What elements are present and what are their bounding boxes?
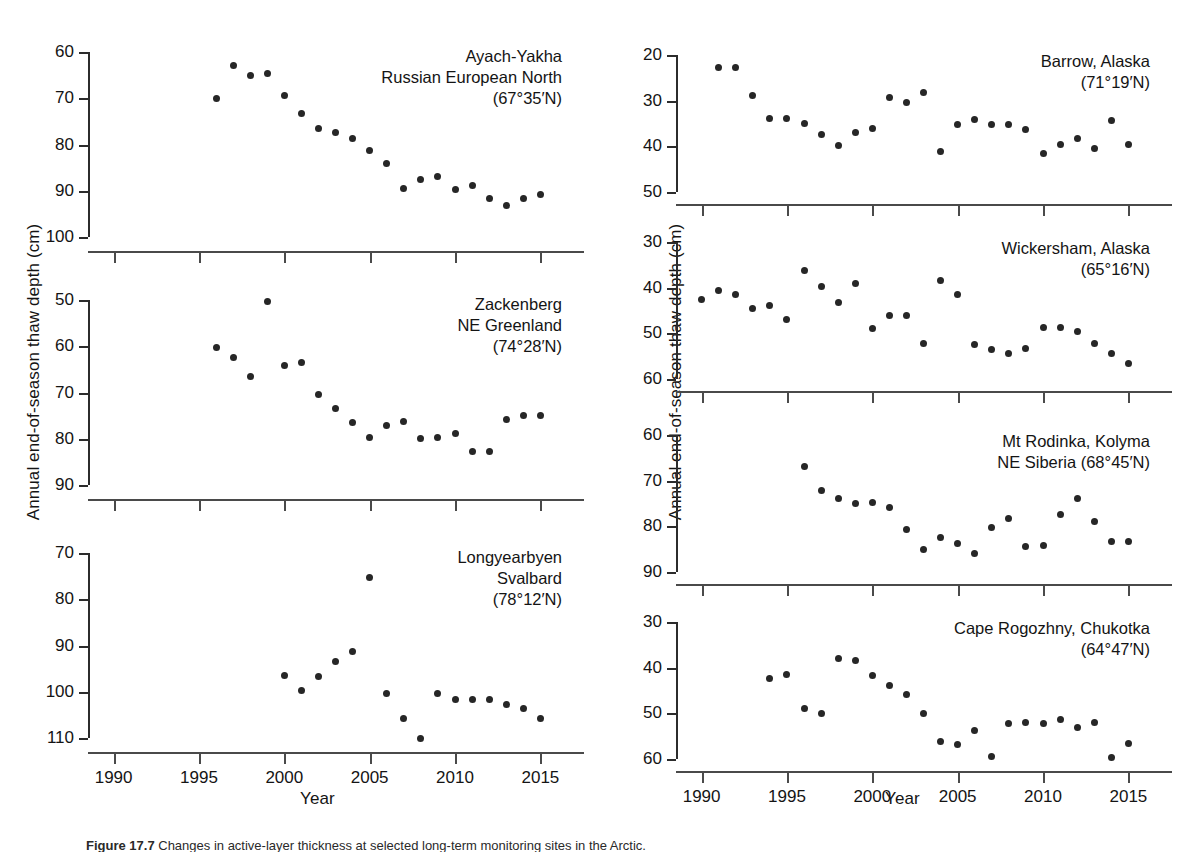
y-tick — [667, 435, 676, 437]
data-point — [937, 277, 944, 284]
y-tick — [79, 393, 88, 395]
data-point — [1040, 150, 1047, 157]
data-point — [503, 416, 510, 423]
panel-wickersham: 30405060Wickersham, Alaska (65°16′N) — [676, 242, 1154, 379]
data-point — [801, 705, 808, 712]
x-tick — [1043, 206, 1045, 216]
x-tick — [370, 501, 372, 511]
x-tick-label: 2000 — [265, 768, 303, 788]
x-tick-label: 1995 — [768, 787, 806, 807]
data-point — [715, 64, 722, 71]
data-point — [366, 147, 373, 154]
data-point — [417, 435, 424, 442]
caption-text: Changes in active-layer thickness at sel… — [158, 838, 646, 852]
data-point — [298, 687, 305, 694]
x-tick-label: 2015 — [1109, 787, 1147, 807]
y-tick — [79, 646, 88, 648]
panel-mt-rodinka: 60708090Mt Rodinka, Kolyma NE Siberia (6… — [676, 435, 1154, 572]
x-tick — [455, 501, 457, 511]
data-point — [383, 422, 390, 429]
data-point — [715, 287, 722, 294]
x-tick — [540, 253, 542, 263]
data-point — [886, 682, 893, 689]
data-point — [920, 340, 927, 347]
data-point — [486, 448, 493, 455]
y-tick — [667, 146, 676, 148]
data-point — [1125, 538, 1132, 545]
data-point — [520, 412, 527, 419]
x-tick — [370, 253, 372, 263]
data-point — [417, 176, 424, 183]
y-tick — [667, 333, 676, 335]
y-tick — [79, 599, 88, 601]
y-tick — [667, 192, 676, 194]
data-point — [818, 283, 825, 290]
y-tick — [79, 346, 88, 348]
x-tick — [702, 393, 704, 403]
data-point — [315, 125, 322, 132]
data-point — [281, 362, 288, 369]
data-point — [1074, 724, 1081, 731]
panel-barrow: 20304050Barrow, Alaska (71°19′N) — [676, 55, 1154, 192]
data-point — [1074, 135, 1081, 142]
y-tick-label: 70 — [22, 88, 74, 108]
x-tick — [958, 586, 960, 596]
data-point — [835, 495, 842, 502]
data-point — [281, 92, 288, 99]
data-point — [1125, 740, 1132, 747]
data-point — [903, 691, 910, 698]
y-tick-label: 80 — [22, 429, 74, 449]
panel-title-cape-rogozhny: Cape Rogozhny, Chukotka (64°47′N) — [954, 618, 1150, 660]
y-tick — [667, 572, 676, 574]
y-tick-label: 90 — [610, 562, 662, 582]
panel-title-zackenberg: Zackenberg NE Greenland (74°28′N) — [457, 294, 562, 357]
data-point — [1074, 328, 1081, 335]
data-point — [971, 550, 978, 557]
data-point — [315, 391, 322, 398]
data-point — [988, 121, 995, 128]
x-tick — [540, 754, 542, 764]
x-axis-line — [88, 251, 584, 253]
data-point — [732, 64, 739, 71]
data-point — [537, 412, 544, 419]
y-tick-label: 50 — [22, 290, 74, 310]
y-tick-label: 40 — [610, 658, 662, 678]
x-tick-label: 2005 — [351, 768, 389, 788]
data-point — [903, 526, 910, 533]
x-tick — [1043, 393, 1045, 403]
data-point — [971, 727, 978, 734]
data-point — [230, 62, 237, 69]
y-tick-label: 90 — [22, 181, 74, 201]
y-tick — [79, 237, 88, 239]
y-tick — [79, 300, 88, 302]
x-tick — [455, 754, 457, 764]
y-tick-label: 80 — [22, 135, 74, 155]
data-point — [954, 741, 961, 748]
x-axis-line — [676, 391, 1172, 393]
x-axis-line — [676, 771, 1172, 773]
x-tick — [1043, 586, 1045, 596]
data-point — [988, 346, 995, 353]
data-point — [954, 291, 961, 298]
data-point — [230, 354, 237, 361]
y-axis-line — [676, 242, 678, 379]
data-point — [749, 305, 756, 312]
x-tick-label: 2000 — [853, 787, 891, 807]
y-tick-label: 60 — [22, 336, 74, 356]
data-point — [349, 135, 356, 142]
figure-root: Annual end-of-season thaw depth (cm) Ann… — [0, 0, 1198, 852]
data-point — [452, 186, 459, 193]
data-point — [783, 671, 790, 678]
x-tick-label: 1990 — [95, 768, 133, 788]
y-tick-label: 60 — [610, 425, 662, 445]
x-tick-label: 1995 — [180, 768, 218, 788]
panel-title-ayach-yakha: Ayach-Yakha Russian European North (67°3… — [381, 46, 562, 109]
data-point — [1091, 145, 1098, 152]
panel-ayach-yakha: 60708090100Ayach-Yakha Russian European … — [88, 52, 566, 237]
y-tick — [667, 481, 676, 483]
data-point — [1108, 350, 1115, 357]
y-tick-label: 60 — [610, 369, 662, 389]
y-axis-line — [676, 435, 678, 572]
x-tick — [787, 393, 789, 403]
x-axis-label-left: Year — [300, 789, 335, 809]
